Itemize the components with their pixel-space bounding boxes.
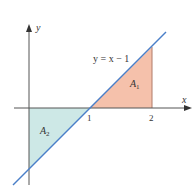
diagram: y x 1 2 y = x − 1 A1 A2 (0, 0, 194, 190)
curve-label: y = x − 1 (93, 53, 129, 64)
y-axis-label: y (35, 22, 41, 33)
x-axis-arrow-icon (184, 105, 192, 111)
y-axis-arrow-icon (26, 24, 32, 32)
x-axis-label: x (181, 94, 187, 105)
tick-2: 2 (149, 113, 154, 123)
tick-1: 1 (87, 113, 92, 123)
